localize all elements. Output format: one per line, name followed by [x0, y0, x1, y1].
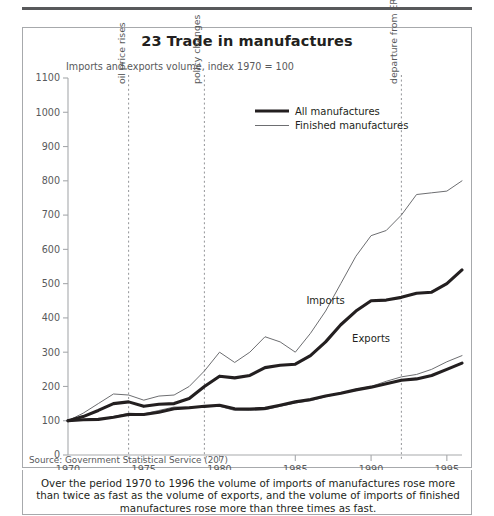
series-line	[68, 356, 462, 421]
figure-page: 23 Trade in manufactures Imports and exp…	[0, 0, 494, 516]
top-rule-divider	[22, 7, 472, 10]
series-line	[68, 363, 462, 421]
legend-label: All manufactures	[295, 106, 380, 117]
y-axis-tick-label: 700	[42, 209, 60, 220]
y-axis-tick-label: 300	[42, 347, 60, 358]
y-axis-tick-label: 400	[42, 312, 60, 323]
annotation-label: policy changes	[191, 14, 202, 84]
y-axis-tick-label: 100	[42, 415, 60, 426]
series-line	[68, 181, 462, 421]
series-inline-label: Exports	[352, 333, 390, 344]
figure-caption: Over the period 1970 to 1996 the volume …	[32, 477, 464, 514]
source-note: Source: Government Statistical Service (…	[29, 455, 228, 465]
series-inline-label: Imports	[306, 295, 344, 306]
annotation-label: departure from ERM	[388, 0, 399, 84]
legend-label: Finished manufactures	[295, 120, 408, 131]
y-axis-tick-label: 800	[42, 175, 60, 186]
series-line	[68, 270, 462, 421]
annotation-label: oil price rises	[116, 22, 127, 84]
y-axis-tick-label: 1000	[36, 107, 60, 118]
y-axis-tick-label: 600	[42, 244, 60, 255]
y-axis-tick-label: 200	[42, 381, 60, 392]
y-axis-tick-label: 500	[42, 278, 60, 289]
y-axis-tick-label: 1100	[36, 72, 60, 83]
line-chart: 0100200300400500600700800900100011001970…	[22, 27, 472, 468]
y-axis-tick-label: 900	[42, 141, 60, 152]
